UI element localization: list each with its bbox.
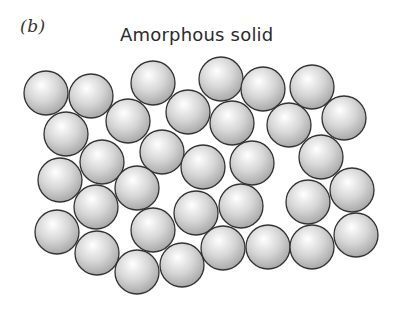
sphere-group [24,57,378,294]
sphere-atom [131,208,175,252]
amorphous-solid-diagram [0,0,397,313]
sphere-atom [181,145,225,189]
sphere-atom [334,213,378,257]
sphere-atom [115,166,159,210]
sphere-atom [131,61,175,105]
sphere-atom [140,130,184,174]
sphere-atom [330,168,374,212]
sphere-atom [290,65,334,109]
sphere-atom [246,225,290,269]
sphere-atom [230,141,274,185]
sphere-atom [44,112,88,156]
sphere-atom [115,250,159,294]
sphere-atom [24,71,68,115]
sphere-atom [166,90,210,134]
sphere-atom [199,57,243,101]
sphere-atom [106,99,150,143]
sphere-atom [38,158,82,202]
sphere-atom [69,74,113,118]
sphere-atom [241,67,285,111]
sphere-atom [174,191,218,235]
sphere-atom [210,101,254,145]
sphere-atom [160,243,204,287]
sphere-atom [201,226,245,270]
sphere-atom [74,185,118,229]
sphere-atom [219,184,263,228]
sphere-atom [35,210,79,254]
sphere-atom [75,231,119,275]
sphere-atom [322,96,366,140]
sphere-atom [290,225,334,269]
sphere-atom [267,103,311,147]
sphere-atom [286,180,330,224]
sphere-atom [299,135,343,179]
